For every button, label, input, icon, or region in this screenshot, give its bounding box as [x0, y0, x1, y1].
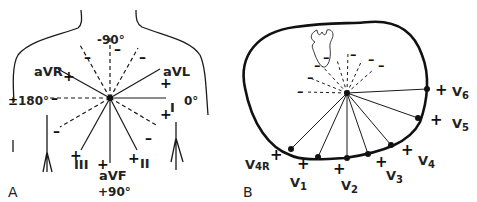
plus-iii: + — [70, 147, 82, 163]
label-v5: V5 — [452, 116, 469, 133]
panel-b-letter: B — [243, 184, 253, 200]
panel-a-frontal-plane: -90° 180° ± 0° +90° aVR aVL I II III aVF… — [8, 10, 208, 200]
label-v4: V4 — [418, 153, 435, 170]
angle-plus-90: +90° — [98, 185, 131, 199]
vector-v1 — [318, 93, 347, 157]
precordial-labels: V6 V5 V4 V3 V2 V1 V4R — [245, 84, 469, 195]
minus-avl: – — [53, 123, 60, 139]
panel-b-horizontal-plane: – – – – – – – + + + + + + + V6 V5 V4 V3 … — [243, 22, 469, 200]
electrode-v3 — [365, 151, 371, 157]
vector-v6 — [347, 89, 427, 93]
svg-text:+: + — [435, 81, 448, 99]
panel-a-letter: A — [8, 184, 18, 200]
svg-text:+: + — [333, 160, 346, 178]
angle-180-sign: ± — [8, 94, 18, 108]
angle-180: 180° — [18, 94, 49, 108]
electrode-v1 — [315, 154, 321, 160]
minus-iii: – — [139, 49, 146, 65]
svg-text:–: – — [314, 58, 321, 73]
ecg-lead-diagram: -90° 180° ± 0° +90° aVR aVL I II III aVF… — [0, 0, 477, 202]
svg-text:–: – — [307, 70, 314, 85]
svg-text:+: + — [430, 111, 443, 129]
label-v2: V2 — [341, 178, 358, 195]
plus-i: + — [160, 106, 172, 122]
minus-avr: – — [145, 130, 152, 146]
heart-center — [344, 90, 350, 96]
svg-text:–: – — [368, 52, 375, 67]
svg-text:–: – — [297, 84, 304, 99]
plus-avf: + — [97, 156, 109, 172]
svg-text:–: – — [323, 50, 330, 65]
minus-avf: – — [114, 41, 121, 57]
angle-0: 0° — [184, 94, 198, 108]
label-v4r: V4R — [245, 157, 270, 172]
label-avr: aVR — [34, 64, 63, 79]
plus-avl: + — [160, 75, 172, 91]
electrode-v4r — [288, 146, 294, 152]
positive-signs: + + + + + + — [63, 68, 172, 172]
plus-ii: + — [128, 150, 140, 166]
vector-v4r — [291, 93, 347, 149]
electrode-v6 — [424, 86, 430, 92]
svg-text:+: + — [270, 146, 283, 164]
axis-center — [107, 95, 113, 101]
label-v6: V6 — [452, 84, 469, 101]
svg-text:–: – — [378, 58, 385, 73]
label-v1: V1 — [290, 175, 307, 192]
svg-text:–: – — [350, 47, 357, 62]
electrode-v5 — [415, 115, 421, 121]
svg-text:+: + — [297, 155, 310, 173]
vector-v3 — [347, 93, 368, 154]
label-v3: V3 — [386, 168, 403, 185]
plus-avr: + — [63, 68, 75, 84]
minus-ii: – — [84, 49, 91, 65]
label-ii: II — [140, 156, 150, 171]
minus-i: – — [51, 90, 58, 106]
svg-text:+: + — [401, 141, 414, 159]
electrode-v4 — [388, 142, 394, 148]
